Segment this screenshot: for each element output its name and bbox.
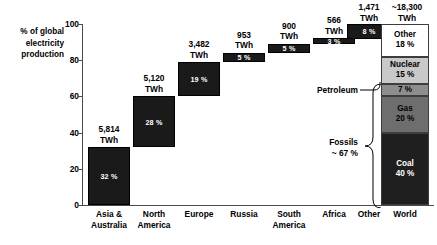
world-segment-nuclear-pct: 15 % bbox=[396, 70, 415, 80]
bar-africa[interactable]: 3 % bbox=[313, 38, 355, 44]
electricity-production-waterfall-chart: % of global electricity production 100 8… bbox=[0, 0, 437, 245]
bar-north-america-value: 5,120 TWh bbox=[127, 73, 181, 94]
bar-world-value: ~18,300 TWh bbox=[378, 2, 436, 23]
bar-europe[interactable]: 19 % bbox=[178, 62, 220, 96]
y-tick-label-100: 100 bbox=[59, 19, 79, 29]
y-axis-line bbox=[82, 24, 83, 206]
fossils-brace-label: Fossils ~ 67 % bbox=[296, 137, 358, 159]
x-label-world: World bbox=[377, 209, 433, 220]
bar-europe-pct: 19 % bbox=[179, 75, 219, 84]
bar-south-america-pct: 5 % bbox=[269, 44, 309, 53]
world-segment-nuclear-name: Nuclear bbox=[390, 60, 420, 70]
y-tick-mark-80 bbox=[78, 60, 82, 61]
y-tick-label-0: 0 bbox=[59, 200, 79, 210]
y-axis-title: % of global electricity production bbox=[2, 26, 64, 61]
world-segment-gas-name: Gas bbox=[397, 104, 412, 114]
y-tick-label-80: 80 bbox=[59, 55, 79, 65]
world-segment-other[interactable]: Other 18 % bbox=[381, 24, 429, 57]
y-tick-mark-100 bbox=[78, 24, 82, 25]
world-segment-petroleum-pct: 7 % bbox=[398, 85, 412, 95]
world-segment-gas-pct: 20 % bbox=[396, 114, 415, 124]
world-segment-petroleum[interactable]: 7 % bbox=[381, 84, 429, 97]
bar-russia-pct: 5 % bbox=[224, 53, 264, 62]
world-segment-gas[interactable]: Gas 20 % bbox=[381, 96, 429, 132]
y-tick-label-40: 40 bbox=[59, 128, 79, 138]
fossils-brace-shape bbox=[363, 84, 383, 208]
y-tick-mark-60 bbox=[78, 96, 82, 97]
y-tick-mark-20 bbox=[78, 169, 82, 170]
y-tick-mark-0 bbox=[78, 205, 82, 206]
world-segment-other-pct: 18 % bbox=[396, 40, 415, 50]
world-segment-coal-name: Coal bbox=[396, 159, 414, 169]
y-tick-label-20: 20 bbox=[59, 164, 79, 174]
bar-north-america-pct: 28 % bbox=[134, 117, 174, 126]
world-segment-other-name: Other bbox=[394, 30, 416, 40]
bar-russia[interactable]: 5 % bbox=[223, 53, 265, 62]
world-segment-nuclear[interactable]: Nuclear 15 % bbox=[381, 57, 429, 84]
bar-north-america[interactable]: 28 % bbox=[133, 96, 175, 147]
world-segment-coal[interactable]: Coal 40 % bbox=[381, 133, 429, 205]
bar-south-america[interactable]: 5 % bbox=[268, 44, 310, 53]
bar-asia-australia[interactable]: 32 % bbox=[88, 147, 130, 205]
y-tick-label-60: 60 bbox=[59, 91, 79, 101]
bar-asia-australia-value: 5,814 TWh bbox=[82, 124, 136, 145]
petroleum-callout-label: Petroleum bbox=[284, 85, 358, 96]
world-segment-coal-pct: 40 % bbox=[396, 169, 415, 179]
bar-asia-australia-pct: 32 % bbox=[89, 172, 129, 181]
